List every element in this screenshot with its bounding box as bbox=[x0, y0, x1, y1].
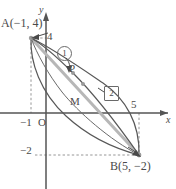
origin-label: O bbox=[38, 117, 46, 128]
x-axis-label: x bbox=[166, 115, 170, 125]
y-tick-label-neg2: −2 bbox=[20, 145, 32, 156]
segment-AB bbox=[31, 38, 139, 155]
marker-2-boxed: 2 bbox=[104, 86, 119, 101]
point-label-M: M bbox=[70, 96, 80, 107]
point-label-A: A(−1, 4) bbox=[1, 17, 42, 29]
x-tick-label-5: 5 bbox=[131, 99, 137, 110]
y-tick-label-4: 4 bbox=[47, 31, 53, 42]
coordinate-geometry-figure: A(−1, 4) B(5, −2) P M 4 5 −1 −2 O x y 1 … bbox=[0, 0, 176, 189]
point-label-P: P bbox=[69, 63, 75, 74]
y-axis-label: y bbox=[39, 5, 43, 15]
point-M bbox=[81, 82, 85, 86]
point-label-B: B(5, −2) bbox=[110, 160, 151, 172]
y-axis-arrowhead bbox=[43, 12, 49, 21]
marker-1-circled: 1 bbox=[57, 46, 72, 61]
x-tick-label-neg1: −1 bbox=[20, 117, 32, 128]
